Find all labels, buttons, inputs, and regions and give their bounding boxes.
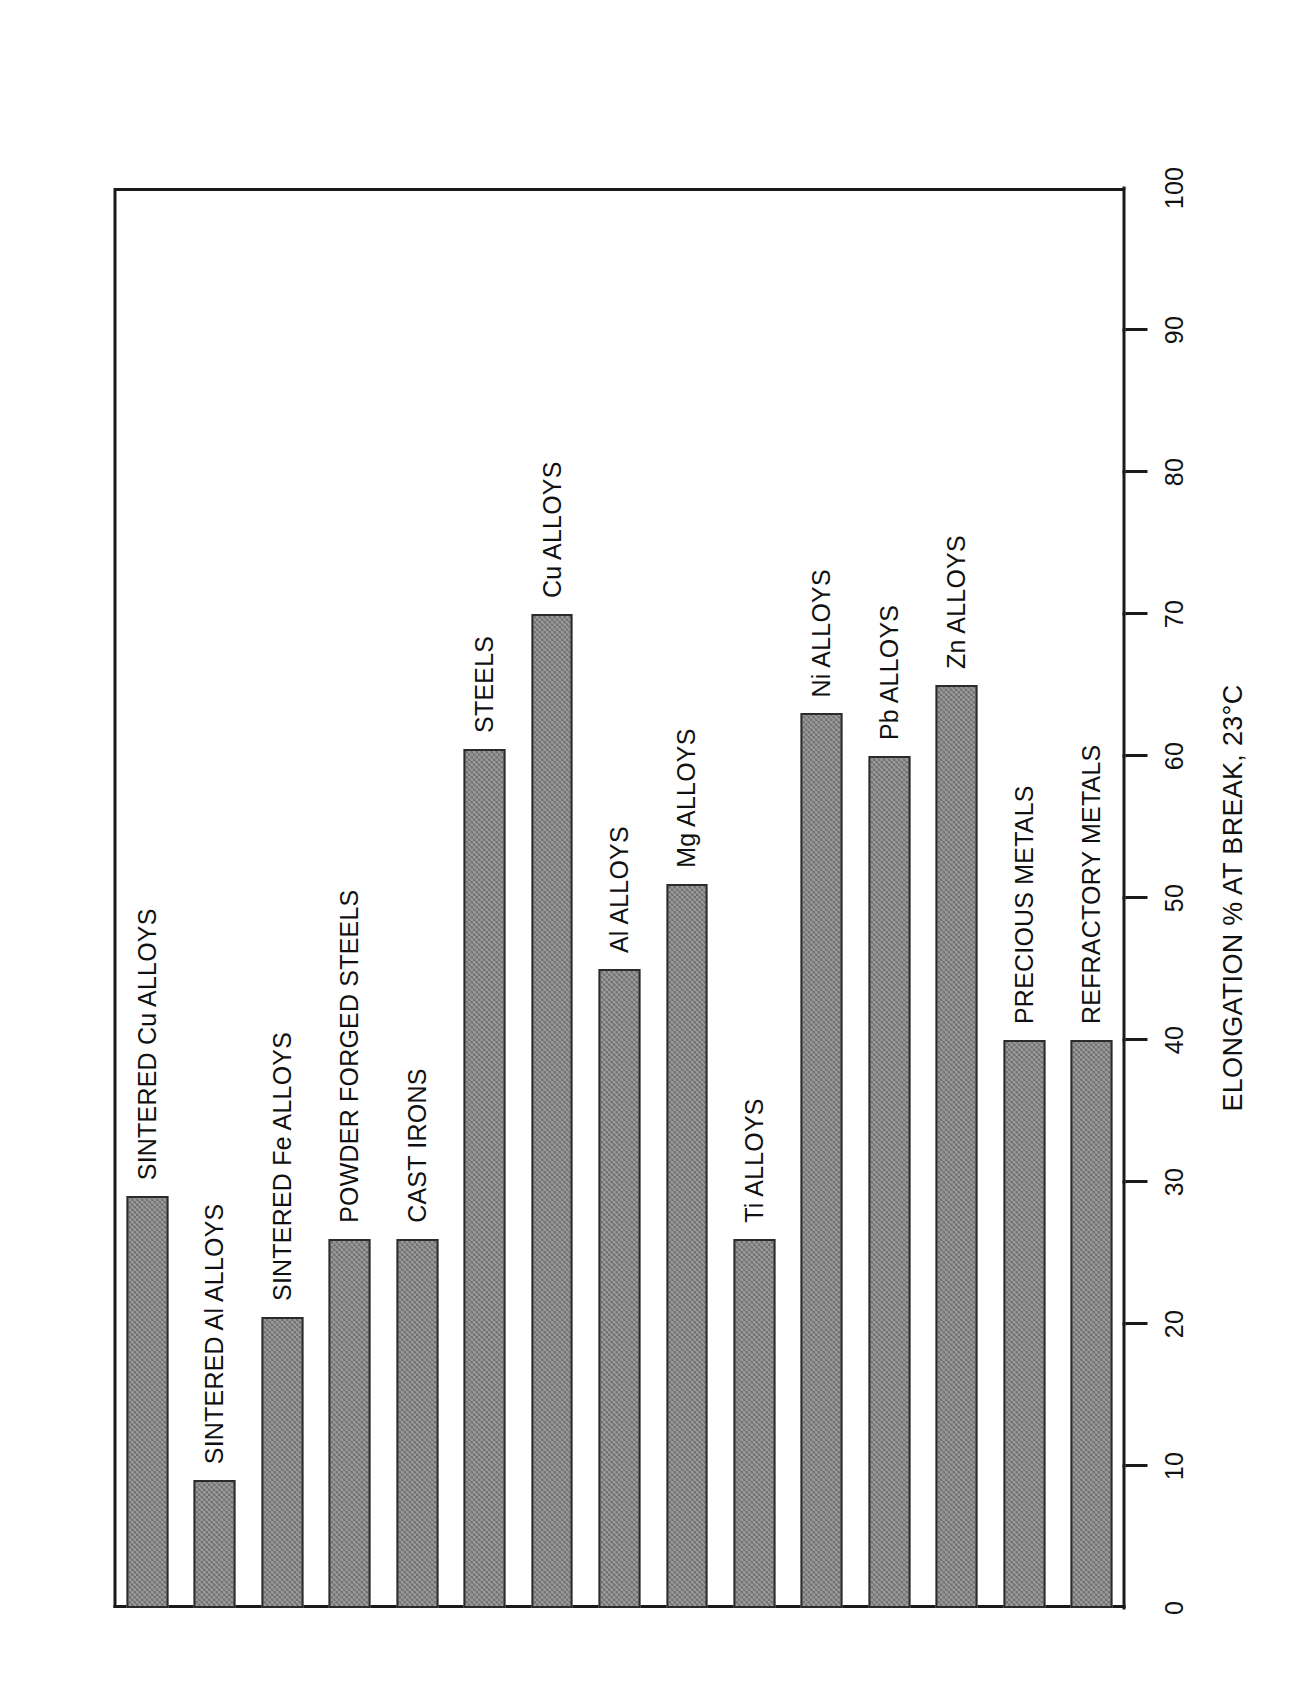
bar: [261, 1317, 303, 1608]
bar-label: STEELS: [470, 636, 499, 733]
bar-label: PRECIOUS METALS: [1009, 785, 1038, 1024]
bar: [598, 969, 640, 1608]
axis-tick-mark: [1125, 1181, 1147, 1184]
axis-tick-label: 30: [1159, 1168, 1188, 1196]
axis-tick-mark: [1125, 1607, 1147, 1610]
bar-row: Ni ALLOYS: [800, 188, 842, 1608]
bar-label: POWDER FORGED STEELS: [335, 890, 364, 1223]
bar: [463, 749, 505, 1608]
axis-tick-label: 10: [1159, 1452, 1188, 1480]
bar-label: Ti ALLOYS: [739, 1098, 768, 1223]
bar-row: SINTERED Al ALLOYS: [193, 188, 235, 1608]
axis-tick-mark: [1125, 755, 1147, 758]
axis-tick-mark: [1125, 187, 1147, 190]
bar-row: Ti ALLOYS: [733, 188, 775, 1608]
bar-row: POWDER FORGED STEELS: [328, 188, 370, 1608]
bar-series: SINTERED Cu ALLOYSSINTERED Al ALLOYSSINT…: [113, 188, 1125, 1608]
bar-label: REFRACTORY METALS: [1077, 745, 1106, 1024]
axis-tick-label: 0: [1159, 1601, 1188, 1615]
bar-label: Ni ALLOYS: [807, 569, 836, 697]
bar-label: Zn ALLOYS: [942, 535, 971, 669]
bar: [193, 1480, 235, 1608]
axis-tick-mark: [1125, 897, 1147, 900]
axis-tick-mark: [1125, 1465, 1147, 1468]
bar-row: STEELS: [463, 188, 505, 1608]
bar: [800, 713, 842, 1608]
bar-row: Mg ALLOYS: [666, 188, 708, 1608]
bar: [1003, 1040, 1045, 1608]
bar: [531, 614, 573, 1608]
bar-label: Al ALLOYS: [604, 826, 633, 953]
axis-tick-label: 70: [1159, 600, 1188, 628]
bar-label: Pb ALLOYS: [874, 605, 903, 740]
bar-row: Pb ALLOYS: [868, 188, 910, 1608]
axis-tick-mark: [1125, 329, 1147, 332]
axis-tick-label: 20: [1159, 1310, 1188, 1338]
bar-label: Mg ALLOYS: [672, 728, 701, 867]
axis-tick-label: 100: [1159, 167, 1188, 210]
bar-label: Cu ALLOYS: [537, 461, 566, 598]
bar: [1070, 1040, 1112, 1608]
figure-stage: 0102030405060708090100 SINTERED Cu ALLOY…: [0, 0, 1291, 1686]
plot-area: 0102030405060708090100 SINTERED Cu ALLOY…: [113, 188, 1125, 1608]
bar: [935, 685, 977, 1608]
bar-row: Cu ALLOYS: [531, 188, 573, 1608]
bar-row: SINTERED Fe ALLOYS: [261, 188, 303, 1608]
axis-tick-mark: [1125, 1039, 1147, 1042]
bar-row: SINTERED Cu ALLOYS: [126, 188, 168, 1608]
bar: [666, 884, 708, 1608]
axis-tick-mark: [1125, 471, 1147, 474]
bar-label: SINTERED Al ALLOYS: [200, 1204, 229, 1465]
bar: [328, 1239, 370, 1608]
chart-canvas: 0102030405060708090100 SINTERED Cu ALLOY…: [0, 0, 1291, 1686]
bar-row: Zn ALLOYS: [935, 188, 977, 1608]
bar-label: SINTERED Cu ALLOYS: [132, 908, 161, 1180]
bar-row: CAST IRONS: [396, 188, 438, 1608]
axis-tick-label: 90: [1159, 316, 1188, 344]
axis-tick-mark: [1125, 1323, 1147, 1326]
axis-title: ELONGATION % AT BREAK, 23°C: [1217, 684, 1248, 1111]
axis-tick-label: 80: [1159, 458, 1188, 486]
bar: [396, 1239, 438, 1608]
axis-tick-label: 60: [1159, 742, 1188, 770]
bar: [868, 756, 910, 1608]
bar-row: REFRACTORY METALS: [1070, 188, 1112, 1608]
bar: [126, 1196, 168, 1608]
bar-row: PRECIOUS METALS: [1003, 188, 1045, 1608]
axis-tick-mark: [1125, 613, 1147, 616]
axis-tick-label: 40: [1159, 1026, 1188, 1054]
bar-row: Al ALLOYS: [598, 188, 640, 1608]
bar-label: CAST IRONS: [402, 1068, 431, 1222]
axis-tick-label: 50: [1159, 884, 1188, 912]
bar-label: SINTERED Fe ALLOYS: [267, 1032, 296, 1301]
bar: [733, 1239, 775, 1608]
